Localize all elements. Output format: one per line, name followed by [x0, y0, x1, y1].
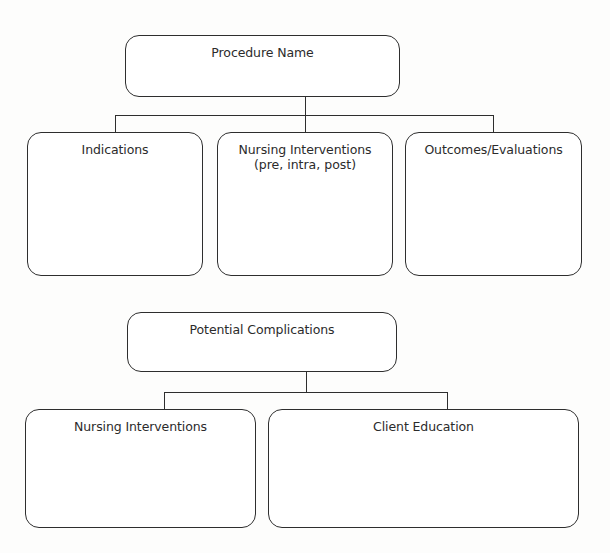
- nursing-interventions-pip-label: Nursing Interventions: [218, 133, 392, 157]
- nursing-interventions-label: Nursing Interventions: [26, 410, 255, 434]
- connector-bottom-bar: [164, 392, 448, 393]
- connector-client-education: [447, 392, 448, 409]
- client-education-label: Client Education: [269, 410, 578, 434]
- nursing-interventions-pip-sublabel: (pre, intra, post): [218, 157, 392, 172]
- connector-indications: [115, 115, 116, 132]
- client-education-box: Client Education: [268, 409, 579, 528]
- nursing-interventions-pip-box: Nursing Interventions (pre, intra, post): [217, 132, 393, 276]
- procedure-name-box: Procedure Name: [125, 35, 400, 97]
- outcomes-evaluations-box: Outcomes/Evaluations: [405, 132, 582, 276]
- indications-label: Indications: [28, 133, 202, 157]
- connector-nursing-interventions-pip: [305, 115, 306, 132]
- nursing-interventions-box: Nursing Interventions: [25, 409, 256, 528]
- potential-complications-box: Potential Complications: [127, 312, 397, 372]
- connector-top-stem: [305, 97, 306, 115]
- indications-box: Indications: [27, 132, 203, 276]
- connector-bottom-stem: [306, 372, 307, 392]
- procedure-name-label: Procedure Name: [126, 36, 399, 60]
- connector-outcomes: [493, 115, 494, 132]
- potential-complications-label: Potential Complications: [128, 313, 396, 337]
- connector-nursing-interventions: [164, 392, 165, 409]
- outcomes-evaluations-label: Outcomes/Evaluations: [406, 133, 581, 157]
